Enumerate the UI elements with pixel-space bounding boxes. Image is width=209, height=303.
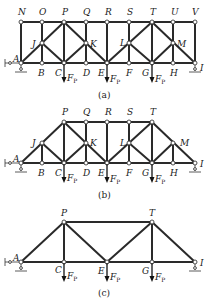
node-label-q: Q xyxy=(83,107,91,117)
load-label-c: FP xyxy=(66,173,77,184)
node-label-t: T xyxy=(150,107,157,117)
node-label-i: I xyxy=(199,159,204,169)
node-label-r: R xyxy=(104,107,112,117)
node-label-t: T xyxy=(150,7,157,17)
node-label-k: K xyxy=(89,39,98,49)
node-label-c: C xyxy=(55,168,62,178)
panel-b: P Q R S T J K L M A B C D E F G H I FP F… xyxy=(5,107,204,200)
node-label-f: F xyxy=(125,68,133,78)
node-label-h: H xyxy=(169,68,178,78)
node-label-c: C xyxy=(55,68,62,78)
node-label-s: S xyxy=(127,107,133,117)
load-arrow-g xyxy=(150,64,155,83)
node-label-l: L xyxy=(119,138,126,148)
load-label-g: FP xyxy=(154,74,165,85)
load-label-c: FP xyxy=(66,73,77,84)
load-label-g: FP xyxy=(154,174,165,185)
node-label-p: P xyxy=(60,208,68,218)
node-label-g: G xyxy=(142,266,149,276)
node-label-b: B xyxy=(37,168,45,178)
load-arrow-g xyxy=(150,164,155,183)
load-label-e: FP xyxy=(109,174,120,185)
node-label-u: U xyxy=(171,7,179,17)
node-label-p: P xyxy=(61,107,69,117)
node-label-v: V xyxy=(192,7,200,17)
load-label-e: FP xyxy=(109,74,120,85)
node-label-c: C xyxy=(55,265,62,275)
load-label-e: FP xyxy=(109,272,120,283)
node-label-q: Q xyxy=(83,7,91,17)
panel-a: N O P Q R S T U V J K L M A B C D E F G … xyxy=(5,7,204,100)
caption-c: (c) xyxy=(98,288,110,298)
node-label-a: A xyxy=(12,154,20,164)
node-label-i: I xyxy=(199,63,204,73)
panel-c: P T A C E G I FP FP FP (c) xyxy=(5,208,204,298)
load-arrow-e xyxy=(105,64,110,83)
load-arrow-e xyxy=(105,164,110,183)
node-label-f: F xyxy=(125,168,133,178)
node-label-d: D xyxy=(82,168,90,178)
node-label-n: N xyxy=(17,7,27,17)
caption-a: (a) xyxy=(98,90,110,100)
caption-b: (b) xyxy=(98,190,111,200)
truss-figure: N O P Q R S T U V J K L M A B C D E F G … xyxy=(0,0,209,303)
load-label-c: FP xyxy=(66,271,77,282)
node-label-m: M xyxy=(176,39,187,49)
node-label-l: L xyxy=(119,38,126,48)
node-label-g: G xyxy=(142,68,149,78)
load-arrow-c xyxy=(62,164,67,183)
node-label-k: K xyxy=(89,138,98,148)
node-label-m: M xyxy=(179,138,190,148)
load-arrow-c xyxy=(62,64,67,83)
node-label-r: R xyxy=(104,7,112,17)
node-label-t: T xyxy=(149,208,156,218)
node-label-e: E xyxy=(97,168,105,178)
node-label-i: I xyxy=(199,258,204,268)
node-label-e: E xyxy=(97,68,105,78)
node-label-a: A xyxy=(12,253,20,263)
node-label-d: D xyxy=(82,68,90,78)
node-label-g: G xyxy=(142,168,149,178)
node-label-p: P xyxy=(61,7,69,17)
load-arrow-e xyxy=(105,263,110,282)
load-arrow-g xyxy=(150,263,155,282)
node-label-a: A xyxy=(12,54,20,64)
load-label-g: FP xyxy=(154,272,165,283)
node-label-s: S xyxy=(127,7,133,17)
node-label-o: O xyxy=(39,7,47,17)
node-label-b: B xyxy=(37,68,45,78)
node-label-e: E xyxy=(97,266,105,276)
node-label-h: H xyxy=(169,168,178,178)
load-arrow-c xyxy=(62,263,67,282)
node-label-j: J xyxy=(30,138,37,148)
